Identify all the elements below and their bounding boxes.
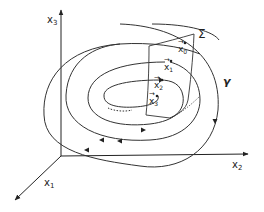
point-label-x0: →x0 [178, 45, 187, 55]
trajectory-loop-outer [44, 24, 218, 167]
axes [15, 10, 248, 200]
point-label-x1: →x1 [164, 63, 173, 73]
trajectory-dotted [108, 108, 132, 111]
x1-axis-label: x1 [44, 178, 54, 190]
trajectory [44, 24, 219, 167]
x3-axis-label: x3 [47, 15, 57, 27]
gamma-label: γ [223, 76, 231, 87]
trajectory-loop-2 [66, 44, 200, 140]
poincare-diagram [0, 0, 264, 212]
point-label-x2: →x2 [154, 81, 163, 91]
x2-axis-label: x2 [232, 160, 242, 172]
trajectory-arrows [84, 77, 218, 153]
point-label-x3: →x3 [149, 97, 158, 107]
sigma-label: Σ [198, 28, 206, 40]
x2-axis [61, 154, 248, 156]
